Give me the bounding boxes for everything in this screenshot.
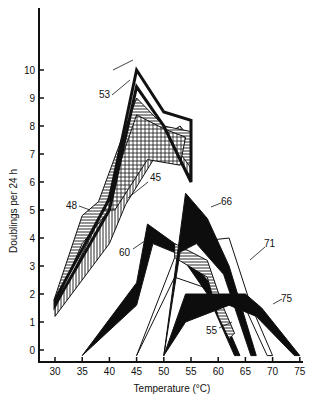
label-66: 66 (221, 196, 233, 207)
x-tick-label: 55 (185, 366, 197, 377)
y-tick-label: 8 (29, 121, 35, 132)
label-48: 48 (66, 200, 78, 211)
x-axis-title: Temperature (°C) (134, 383, 211, 394)
y-tick-label: 7 (29, 149, 35, 160)
y-tick-label: 0 (29, 345, 35, 356)
x-tick-label: 70 (267, 366, 279, 377)
label-53: 53 (99, 89, 111, 100)
label-60: 60 (119, 247, 131, 258)
label-55: 55 (206, 325, 218, 336)
y-tick-label: 6 (29, 177, 35, 188)
x-ticks: 30354045505560657075 (49, 357, 305, 377)
y-ticks: 012345678910 (24, 65, 44, 356)
y-tick-label: 4 (29, 233, 35, 244)
y-tick-label: 10 (24, 65, 36, 76)
y-tick-label: 5 (29, 205, 35, 216)
y-tick-label: 1 (29, 317, 35, 328)
y-tick-label: 3 (29, 261, 35, 272)
x-tick-label: 45 (131, 366, 143, 377)
label-75: 75 (281, 293, 293, 304)
x-tick-label: 65 (240, 366, 252, 377)
y-tick-label: 2 (29, 289, 35, 300)
x-tick-label: 30 (49, 366, 61, 377)
label-45: 45 (150, 172, 162, 183)
x-tick-label: 60 (213, 366, 225, 377)
x-tick-label: 35 (77, 366, 89, 377)
x-tick-label: 50 (158, 366, 170, 377)
x-tick-label: 75 (294, 366, 306, 377)
y-tick-label: 9 (29, 93, 35, 104)
growth-rate-chart: 30354045505560657075 012345678910 Temper… (0, 0, 316, 400)
y-axis-title: Doublings per 24 h (8, 169, 19, 253)
x-tick-label: 40 (104, 366, 116, 377)
data-bands (55, 70, 300, 356)
label-71: 71 (264, 238, 276, 249)
